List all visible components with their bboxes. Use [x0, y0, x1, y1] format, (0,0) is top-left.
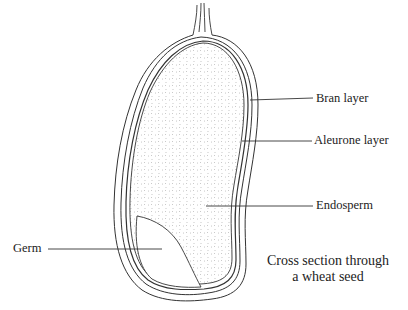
bran-leader-line [250, 98, 313, 100]
bran-layer-label: Bran layer [316, 92, 368, 105]
aleurone-layer-label: Aleurone layer [314, 134, 389, 147]
stalk [193, 3, 212, 35]
caption-line-2: a wheat seed [258, 269, 398, 285]
stalk-line-2 [199, 3, 201, 32]
endosperm-label: Endosperm [316, 199, 373, 212]
stalk-line-1 [193, 5, 197, 35]
wheat-seed-diagram: Bran layer Aleurone layer Endosperm Germ… [0, 0, 408, 310]
germ-label: Germ [13, 242, 41, 255]
stalk-line-3 [204, 3, 205, 32]
stalk-line-4 [209, 8, 212, 35]
caption-line-1: Cross section through [258, 253, 398, 269]
diagram-caption: Cross section through a wheat seed [258, 253, 398, 285]
